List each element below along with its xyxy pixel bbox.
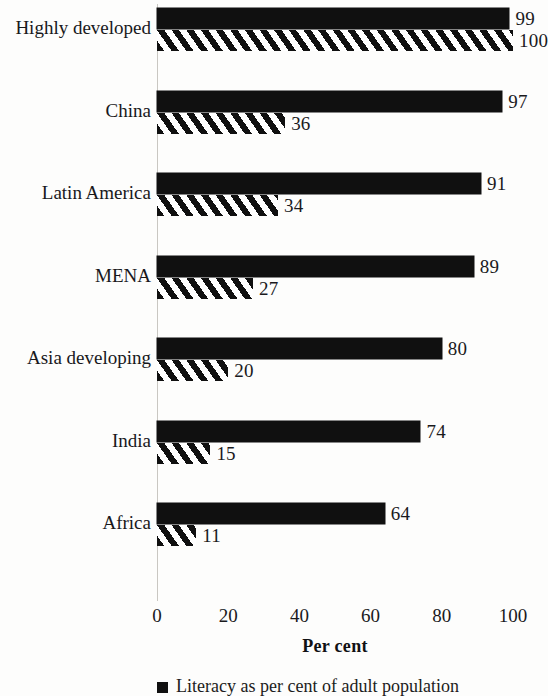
plot-area: 99100973691348927802074156411 (157, 0, 513, 600)
category-label: Asia developing (5, 347, 157, 368)
bar-value-label: 80 (448, 338, 467, 359)
chart-figure: Highly developedChinaLatin AmericaMENAAs… (0, 0, 548, 696)
bar-solid (157, 503, 385, 524)
bar-value-label: 97 (508, 91, 527, 112)
bar-value-label: 36 (291, 113, 310, 134)
category-label: India (5, 430, 157, 451)
bar-solid (157, 91, 502, 112)
bar-value-label: 20 (234, 360, 253, 381)
bar-hatched (157, 195, 278, 216)
bar-hatched (157, 278, 253, 299)
bar-solid (157, 8, 509, 29)
bar-value-label: 64 (391, 503, 410, 524)
bar-hatched (157, 525, 196, 546)
bar-value-label: 34 (284, 195, 303, 216)
x-axis-tick-label: 20 (219, 605, 238, 627)
bar-value-label: 27 (259, 278, 278, 299)
x-axis-tick-label: 40 (290, 605, 309, 627)
x-axis-title: Per cent (157, 636, 513, 657)
bar-value-label: 100 (519, 30, 548, 51)
x-axis-tick-label: 60 (361, 605, 380, 627)
category-label: Latin America (5, 182, 157, 203)
legend: Literacy as per cent of adult population (157, 676, 459, 696)
x-axis-tick-label: 0 (152, 605, 162, 627)
bar-value-label: 89 (480, 256, 499, 277)
category-label: Highly developed (5, 17, 157, 38)
bar-value-label: 99 (515, 8, 534, 29)
bar-value-label: 74 (426, 421, 445, 442)
bar-solid (157, 173, 481, 194)
bar-hatched (157, 443, 210, 464)
category-label: Africa (5, 512, 157, 533)
bar-hatched (157, 30, 513, 51)
bar-value-label: 11 (202, 525, 221, 546)
x-axis-tick-label: 100 (499, 605, 528, 627)
bar-value-label: 15 (216, 443, 235, 464)
bar-solid (157, 338, 442, 359)
x-axis: 020406080100 (157, 601, 513, 602)
x-axis-tick-label: 80 (432, 605, 451, 627)
bar-solid (157, 421, 420, 442)
bar-value-label: 91 (487, 173, 506, 194)
bar-hatched (157, 360, 228, 381)
category-label: China (5, 100, 157, 121)
bar-hatched (157, 113, 285, 134)
category-label: MENA (5, 265, 157, 286)
bar-solid (157, 256, 474, 277)
category-label-column: Highly developedChinaLatin AmericaMENAAs… (0, 0, 157, 600)
legend-item-label: Literacy as per cent of adult population (176, 676, 459, 696)
legend-solid-square-icon (157, 682, 168, 693)
